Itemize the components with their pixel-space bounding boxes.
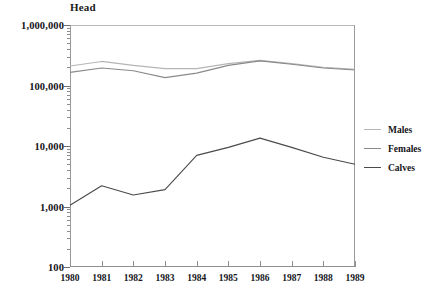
x-tick-label: 1989 [346,273,365,283]
legend-label: Calves [388,163,415,173]
legend-swatch-icon [364,129,381,130]
legend-label: Females [388,144,421,154]
x-tick [355,261,356,267]
chart-container: Head 1,000,000100,00010,0001,000100 1980… [0,0,445,308]
legend-label: Males [388,125,412,135]
series-line-males [70,60,355,69]
x-tick-label: 1988 [314,273,333,283]
x-tick-label: 1983 [156,273,175,283]
plot-area: 1,000,000100,00010,0001,000100 198019811… [70,25,355,267]
x-tick-label: 1986 [251,273,270,283]
x-tick-label: 1981 [92,273,111,283]
y-tick-label: 100,000 [0,80,64,91]
chart-legend: MalesFemalesCalves [364,122,442,179]
x-tick-label: 1987 [282,273,301,283]
y-axis-title: Head [70,1,96,13]
legend-item-males[interactable]: Males [364,122,442,137]
series-line-calves [70,138,355,205]
series-lines [70,25,355,267]
y-tick-major [64,267,70,268]
legend-item-females[interactable]: Females [364,141,442,156]
x-tick-label: 1984 [187,273,206,283]
legend-swatch-icon [364,167,381,168]
y-tick-label: 1,000,000 [0,20,64,31]
series-line-females [70,61,355,78]
x-tick-label: 1985 [219,273,238,283]
y-tick-label: 10,000 [0,141,64,152]
x-tick-label: 1980 [61,273,80,283]
y-tick-label: 1,000 [0,201,64,212]
legend-item-calves[interactable]: Calves [364,160,442,175]
x-tick-label: 1982 [124,273,143,283]
y-tick-label: 100 [0,262,64,273]
legend-swatch-icon [364,148,381,149]
